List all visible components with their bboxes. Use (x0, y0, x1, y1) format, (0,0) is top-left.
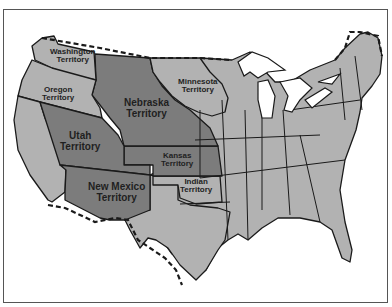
label-minnesota: Minnesota Territory (178, 78, 218, 95)
territory-suffix: Territory (42, 94, 74, 102)
label-utah: Utah Territory (60, 131, 100, 152)
territory-suffix: Territory (161, 160, 193, 168)
label-indian: Indian Territory (180, 178, 212, 195)
territory-suffix: Territory (50, 56, 95, 64)
territory-suffix: Territory (124, 109, 169, 120)
territory-name: Utah (60, 131, 100, 142)
label-washington: Washington Territory (50, 48, 95, 65)
territory-name: Nebraska (124, 98, 169, 109)
territory-suffix: Territory (88, 193, 145, 204)
label-kansas: Kansas Territory (161, 152, 193, 169)
territory-name: New Mexico (88, 182, 145, 193)
label-nebraska: Nebraska Territory (124, 98, 169, 119)
territory-suffix: Territory (180, 186, 212, 194)
territory-suffix: Territory (60, 142, 100, 153)
territory-suffix: Territory (178, 86, 218, 94)
label-new-mexico: New Mexico Territory (88, 182, 145, 203)
label-oregon: Oregon Territory (42, 86, 74, 103)
